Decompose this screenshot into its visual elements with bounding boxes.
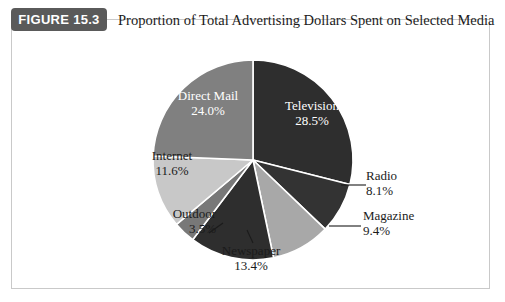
pie-label-outdoor-value: 3.5%	[144, 221, 216, 236]
pie-label-outdoor: Outdoor 3.5%	[144, 206, 216, 236]
pie-label-internet-name: Internet	[128, 148, 216, 163]
pie-label-newspaper-name: Newspaper	[203, 243, 299, 258]
pie-label-radio-value: 8.1%	[366, 183, 428, 198]
pie-label-newspaper: Newspaper 13.4%	[203, 243, 299, 273]
pie-label-television-name: Television	[266, 98, 358, 113]
pie-chart: Television 28.5% Radio 8.1% Magazine 9.4…	[11, 30, 490, 289]
pie-label-magazine-name: Magazine	[363, 208, 445, 223]
pie-label-magazine-value: 9.4%	[363, 223, 445, 238]
pie-label-magazine: Magazine 9.4%	[363, 208, 445, 238]
pie-label-television: Television 28.5%	[266, 98, 358, 128]
figure-number-label: FIGURE 15.3	[18, 12, 99, 27]
pie-label-internet-value: 11.6%	[128, 163, 216, 178]
pie-label-radio-name: Radio	[366, 168, 428, 183]
pie-label-newspaper-value: 13.4%	[203, 258, 299, 273]
pie-label-radio: Radio 8.1%	[366, 168, 428, 198]
pie-label-internet: Internet 11.6%	[128, 148, 216, 178]
pie-label-direct-mail-name: Direct Mail	[159, 88, 257, 103]
pie-label-direct-mail-value: 24.0%	[159, 103, 257, 118]
figure-title: Proportion of Total Advertising Dollars …	[118, 11, 488, 29]
pie-label-direct-mail: Direct Mail 24.0%	[159, 88, 257, 118]
pie-label-outdoor-name: Outdoor	[144, 206, 216, 221]
figure-number-badge: FIGURE 15.3	[11, 8, 107, 31]
pie-label-television-value: 28.5%	[266, 113, 358, 128]
